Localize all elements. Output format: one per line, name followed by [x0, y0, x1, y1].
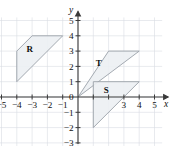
shape-label-t: T	[96, 58, 102, 68]
x-tick-label: 4	[137, 100, 142, 110]
y-tick-label: 1	[69, 77, 74, 87]
x-tick-label: −3	[27, 100, 37, 110]
y-tick-label: −2	[64, 123, 74, 133]
x-axis-label: x	[163, 99, 169, 109]
origin-label: 0	[69, 92, 74, 102]
y-tick-label: 2	[69, 62, 74, 72]
y-tick-label: 4	[69, 31, 74, 41]
y-tick-label: 3	[69, 46, 74, 56]
x-tick-label: 3	[122, 100, 127, 110]
y-tick-label: −3	[64, 138, 74, 148]
y-axis-label: y	[68, 5, 74, 15]
x-tick-label: −4	[12, 100, 22, 110]
y-tick-label: 5	[69, 16, 74, 26]
coordinate-plane-figure: −5−4−3−2−134554321−1−2−30xyRTS	[0, 0, 180, 149]
plot-svg: −5−4−3−2−134554321−1−2−30xyRTS	[0, 0, 180, 149]
shape-s	[93, 82, 139, 128]
x-tick-label: 5	[152, 100, 157, 110]
x-tick-label: −2	[43, 100, 53, 110]
shape-r	[17, 36, 63, 82]
shape-label-s: S	[104, 85, 109, 95]
y-axis-arrow	[76, 11, 81, 16]
shape-label-r: R	[27, 44, 34, 54]
x-tick-label: −5	[0, 100, 7, 110]
y-tick-label: −1	[64, 108, 74, 118]
